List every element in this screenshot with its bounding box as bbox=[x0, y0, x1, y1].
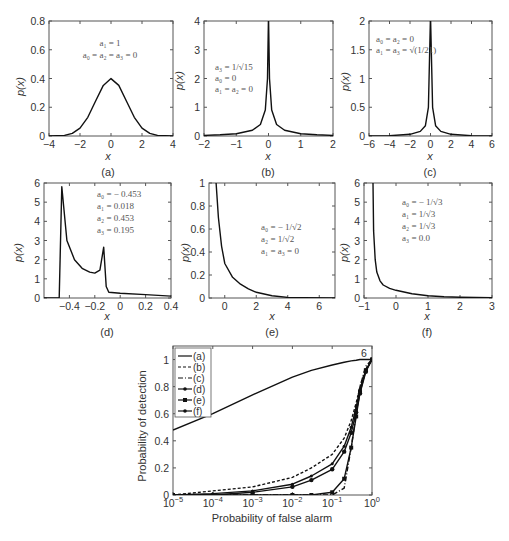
panel-d-xlabel: x bbox=[103, 310, 110, 322]
x-tick-label: 4 bbox=[469, 138, 475, 150]
panel-a-xlabel: x bbox=[104, 150, 111, 162]
roc-xlabel: Probability of false alarm bbox=[212, 512, 332, 524]
panel-d-annotation-4: a₃ = 0.195 bbox=[97, 225, 134, 235]
y-tick-label: 5 bbox=[34, 196, 40, 208]
y-tick-label: 0 bbox=[199, 292, 205, 304]
y-tick-label: 0.4 bbox=[190, 246, 205, 258]
panel-f-ylabel: p(x) bbox=[338, 243, 350, 263]
x-tick-label: −0.2 bbox=[84, 300, 105, 312]
y-tick-label: 0 bbox=[39, 130, 45, 142]
panel-a-caption: (a) bbox=[101, 166, 114, 178]
y-tick-label: 2 bbox=[194, 73, 200, 85]
y-tick-label: 1 bbox=[354, 273, 360, 285]
y-tick-label: 0.2 bbox=[190, 269, 205, 281]
panel-d-annotation-2: a₁ = 0.018 bbox=[97, 201, 134, 211]
y-tick-label: 0.4 bbox=[30, 73, 45, 85]
x-tick-label: 10−2 bbox=[282, 495, 302, 509]
panel-c-xlabel: x bbox=[426, 150, 433, 162]
y-tick-label: 0.2 bbox=[30, 101, 45, 113]
x-tick-label: 0.4 bbox=[164, 300, 179, 312]
panel-e-annotation-1: a₀ = − 1/√2 bbox=[261, 222, 301, 232]
panel-e-annotation-2: a₂ = 1/√2 bbox=[261, 234, 294, 244]
y-tick-label: 1 bbox=[163, 354, 169, 366]
y-tick-label: 5 bbox=[354, 196, 360, 208]
y-tick-label: 0.8 bbox=[190, 200, 205, 212]
y-tick-label: 0.8 bbox=[30, 15, 45, 27]
panel-f-annotation-1: a₀ = − 1/√3 bbox=[402, 197, 443, 207]
panel-c-annotation-2: a₁ = a₃ = √(1/21) bbox=[376, 45, 436, 55]
x-tick-label: 0 bbox=[108, 138, 114, 150]
panel-e-annotation-3: a₁ = a₃ = 0 bbox=[261, 246, 299, 256]
panel-a-annotation-1: a₁ = 1 bbox=[99, 38, 120, 48]
roc-legend: (a)(b)(c)(d)(e)(f) bbox=[175, 348, 211, 417]
panel-d-ylabel: p(x) bbox=[12, 243, 24, 263]
panel-b-caption: (b) bbox=[261, 166, 274, 178]
y-tick-label: 4 bbox=[34, 215, 40, 227]
x-tick-label: −2 bbox=[404, 138, 416, 150]
x-tick-label: 2 bbox=[457, 300, 463, 312]
panel-b-annotation-3: a₁ = a₂ = 0 bbox=[215, 84, 253, 94]
x-tick-label: 4 bbox=[285, 300, 291, 312]
x-tick-label: 0 bbox=[222, 300, 228, 312]
y-tick-label: 4 bbox=[194, 15, 200, 27]
panel-a: −4−202400.20.40.60.8 bbox=[30, 15, 176, 150]
y-tick-label: 0.6 bbox=[154, 408, 169, 420]
roc-ylabel: Probability of detection bbox=[136, 370, 148, 481]
y-tick-label: 1 bbox=[359, 73, 365, 85]
x-tick-label: 0 bbox=[428, 138, 434, 150]
roc-curve-mark: 6 bbox=[361, 347, 367, 359]
x-tick-label: 6 bbox=[489, 138, 495, 150]
y-tick-label: 0.6 bbox=[30, 44, 45, 56]
x-tick-label: 0.2 bbox=[138, 300, 153, 312]
y-tick-label: 1 bbox=[34, 273, 40, 285]
legend-item: (b) bbox=[193, 362, 205, 373]
y-tick-label: 0 bbox=[354, 292, 360, 304]
x-tick-label: −0.4 bbox=[59, 300, 80, 312]
x-tick-label: −1 bbox=[230, 138, 242, 150]
legend-item: (d) bbox=[193, 384, 205, 395]
panel-e-caption: (e) bbox=[265, 326, 278, 338]
panel-b-xlabel: x bbox=[264, 150, 271, 162]
x-tick-label: 2 bbox=[448, 138, 454, 150]
y-tick-label: 3 bbox=[194, 44, 200, 56]
y-tick-label: 0 bbox=[194, 130, 200, 142]
panel-c-annotation-1: a₀ = a₂ = 0 bbox=[376, 34, 414, 44]
panel-e-ylabel: p(x) bbox=[179, 243, 191, 263]
y-tick-label: 6 bbox=[354, 177, 360, 189]
figure: −4−202400.20.40.60.8 p(x) x (a) a₁ = 1 a… bbox=[0, 0, 509, 541]
panel-d-caption: (d) bbox=[100, 326, 113, 338]
x-tick-label: 10−3 bbox=[242, 495, 262, 509]
panel-b-annotation-2: a₀ = 0 bbox=[215, 73, 237, 83]
y-tick-label: 4 bbox=[354, 215, 360, 227]
y-tick-label: 1 bbox=[199, 177, 205, 189]
x-tick-label: 4 bbox=[170, 138, 176, 150]
x-tick-label: 2 bbox=[253, 300, 259, 312]
x-tick-label: 6 bbox=[316, 300, 322, 312]
y-tick-label: 0 bbox=[34, 292, 40, 304]
y-tick-label: 3 bbox=[354, 235, 360, 247]
x-tick-label: 1 bbox=[298, 138, 304, 150]
panel-c: −6−4−2024600.511.52 bbox=[350, 15, 495, 150]
panel-d-annotation-3: a₂ = 0.453 bbox=[97, 213, 134, 223]
legend-item: (c) bbox=[193, 373, 205, 384]
panel-c-ylabel: p(x) bbox=[339, 72, 351, 92]
panel-a-annotation-2: a₀ = a₂ = a₃ = 0 bbox=[83, 50, 138, 60]
panel-f-annotation-4: a₃ = 0.0 bbox=[402, 233, 430, 243]
x-tick-label: 0 bbox=[393, 300, 399, 312]
y-tick-label: 3 bbox=[34, 235, 40, 247]
y-tick-label: 0.5 bbox=[350, 101, 365, 113]
x-tick-label: 0 bbox=[266, 138, 272, 150]
y-tick-label: 1.5 bbox=[350, 44, 365, 56]
x-tick-label: −2 bbox=[74, 138, 86, 150]
panel-e: 024600.20.40.60.81 bbox=[190, 177, 335, 312]
x-tick-label: 2 bbox=[330, 138, 336, 150]
panel-b-annotation-1: a₃ = 1/√15 bbox=[215, 62, 253, 72]
y-tick-label: 0 bbox=[163, 489, 169, 501]
panel-d-annotation-1: a₀ = − 0.453 bbox=[97, 189, 142, 199]
panel-a-ylabel: p(x) bbox=[14, 77, 26, 97]
panel-f-caption: (f) bbox=[422, 326, 432, 338]
panel-c-caption: (c) bbox=[424, 166, 437, 178]
panel-f-annotation-3: a₂ = 1/√3 bbox=[402, 221, 436, 231]
y-tick-label: 1 bbox=[194, 101, 200, 113]
y-tick-label: 2 bbox=[354, 254, 360, 266]
